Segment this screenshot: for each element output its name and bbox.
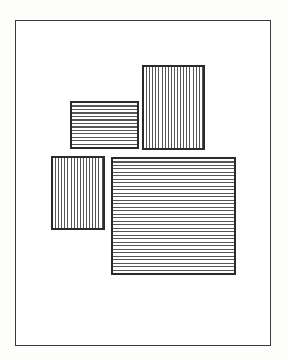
large-horizontal-hatched-rectangle (111, 157, 236, 275)
small-horizontal-hatched-rectangle (70, 101, 139, 149)
tall-vertical-hatched-rectangle (142, 65, 205, 150)
diagram-canvas (0, 0, 287, 360)
small-vertical-hatched-rectangle (51, 156, 105, 230)
